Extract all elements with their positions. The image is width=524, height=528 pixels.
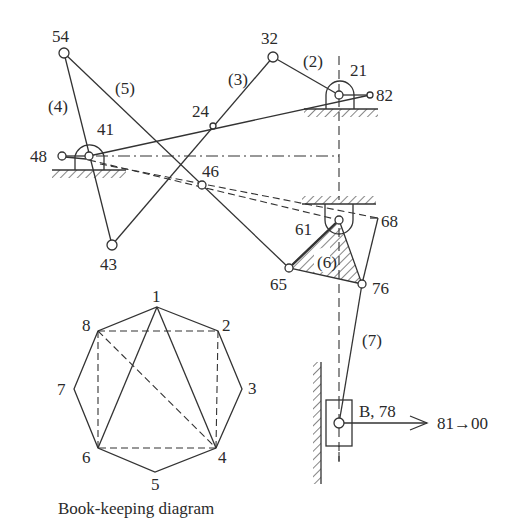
link-3 [112,57,273,245]
label-link-5: (5) [115,79,135,98]
label-46: 46 [202,162,219,181]
edge-1-4 [157,307,216,448]
joint-24 [210,123,216,129]
edge-2-4 [216,331,218,448]
label-21: 21 [350,61,367,80]
linkage-mechanism-figure: 54 32 21 82 24 41 48 46 43 61 68 65 76 B… [0,0,524,528]
label-76: 76 [372,279,389,298]
joint-65 [285,264,293,272]
label-link-3: (3) [228,70,248,89]
label-link-2: (2) [303,52,323,71]
link-4 [64,53,112,245]
joint-32 [268,52,278,62]
label-24: 24 [192,102,210,121]
joint-46 [198,181,206,189]
slider-guide [313,362,321,484]
joint-41 [85,152,93,160]
joint-43 [107,240,117,250]
joint-54 [59,48,69,58]
edge-1-6 [98,307,157,448]
label-82: 82 [376,86,393,105]
vertex-6: 6 [82,448,91,467]
label-78: B, 78 [359,402,396,421]
bookkeeping-diagram: 1 2 3 4 5 6 7 8 Book-keeping diagram [57,287,257,518]
label-54: 54 [52,27,70,46]
mechanism: 54 32 21 82 24 41 48 46 43 61 68 65 76 B… [30,27,488,484]
link-68-76 [362,218,378,284]
label-link-7: (7) [362,331,382,350]
link-5 [64,53,289,268]
bookkeeping-caption: Book-keeping diagram [58,499,214,518]
label-61: 61 [295,220,312,239]
joint-48 [58,152,66,160]
vertex-8: 8 [82,316,91,335]
vertex-5: 5 [151,475,160,494]
label-link-4: (4) [48,97,68,116]
joint-82 [367,92,373,98]
vertex-2: 2 [222,316,231,335]
joint-78 [334,418,344,428]
label-43: 43 [100,255,117,274]
joint-61 [335,216,343,224]
label-link-6: (6) [317,253,337,272]
label-68: 68 [381,212,398,231]
label-48: 48 [30,147,47,166]
label-41: 41 [97,120,114,139]
vertex-3: 3 [248,379,257,398]
vertex-4: 4 [218,448,227,467]
vertex-1: 1 [152,287,161,306]
edge-8-4 [98,331,216,448]
label-output: 81→00 [437,414,488,433]
label-32: 32 [261,29,278,48]
link-41-24-82 [89,95,370,156]
joint-21 [335,91,343,99]
joint-76 [358,280,366,288]
label-65: 65 [270,275,287,294]
vertex-7: 7 [57,380,66,399]
